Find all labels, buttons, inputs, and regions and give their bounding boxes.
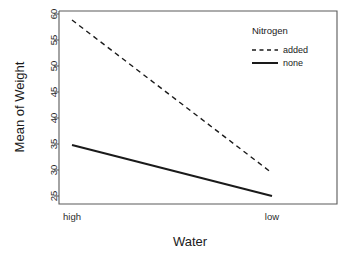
- legend: Nitrogen added none: [252, 25, 308, 68]
- y-axis-title: Mean of Weight: [12, 61, 27, 152]
- legend-label-added: added: [283, 45, 308, 55]
- y-tick-label-30: 30: [48, 165, 59, 176]
- series-line-none: [72, 145, 272, 196]
- y-tick-label-50: 50: [48, 61, 59, 72]
- y-tick-label-35: 35: [48, 139, 59, 150]
- interaction-plot: 60 55 50 45 40 35 30 25 Mean of Weight h…: [0, 0, 354, 256]
- legend-title: Nitrogen: [252, 25, 288, 36]
- y-tick-label-40: 40: [48, 113, 59, 124]
- x-tick-label-low: low: [265, 211, 279, 222]
- series-line-added: [72, 20, 272, 173]
- chart-canvas: 60 55 50 45 40 35 30 25 Mean of Weight h…: [0, 0, 354, 256]
- legend-label-none: none: [283, 58, 303, 68]
- legend-entry-added[interactable]: added: [252, 45, 308, 55]
- y-axis-tick-labels: 60 55 50 45 40 35 30 25: [48, 9, 59, 202]
- plot-frame: [59, 11, 337, 204]
- x-axis-title: Water: [173, 234, 208, 249]
- x-axis-tick-labels: high low: [63, 211, 279, 222]
- plot-box: [59, 11, 337, 204]
- y-tick-label-45: 45: [48, 87, 59, 98]
- legend-entry-none[interactable]: none: [252, 58, 303, 68]
- y-tick-label-60: 60: [48, 9, 59, 20]
- x-tick-label-high: high: [63, 211, 81, 222]
- y-tick-label-25: 25: [48, 191, 59, 202]
- y-tick-label-55: 55: [48, 35, 59, 46]
